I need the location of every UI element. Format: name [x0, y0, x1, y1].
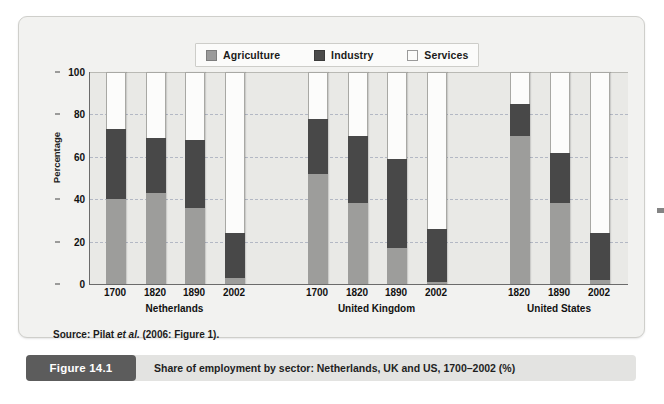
segment-agriculture	[550, 203, 570, 284]
segment-agriculture	[106, 199, 126, 284]
x-tick-label-1820-1: 1820	[135, 287, 175, 298]
segment-services	[550, 72, 570, 153]
segment-services	[427, 72, 447, 229]
y-tick-mark-60	[55, 156, 60, 157]
segment-services	[185, 72, 205, 140]
segment-industry	[225, 233, 245, 278]
segment-industry	[590, 233, 610, 280]
x-tick-label-2002-3: 2002	[214, 287, 254, 298]
y-tick-mark-0	[55, 284, 60, 285]
x-tick-label-1820-5: 1820	[337, 287, 377, 298]
source-suffix: (2006: Figure 1).	[140, 329, 219, 340]
segment-industry	[427, 229, 447, 282]
group-label-united-kingdom: United Kingdom	[307, 303, 447, 314]
segment-services	[348, 72, 368, 136]
segment-services	[590, 72, 610, 233]
segment-agriculture	[225, 278, 245, 284]
y-tick-label-60: 60	[59, 151, 85, 162]
segment-industry	[185, 140, 205, 208]
segment-services	[510, 72, 530, 104]
x-tick-label-2002-7: 2002	[416, 287, 456, 298]
bar-united-kingdom-1890	[387, 72, 407, 284]
y-tick-label-40: 40	[59, 194, 85, 205]
segment-agriculture	[590, 280, 610, 284]
x-axis-tick-labels: 1700182018902002170018201890200218201890…	[89, 287, 629, 303]
services-swatch-icon	[407, 50, 418, 61]
y-axis-ticks: 020406080100	[59, 72, 85, 284]
group-label-netherlands: Netherlands	[105, 303, 245, 314]
x-tick-label-1890-2: 1890	[174, 287, 214, 298]
x-tick-label-1890-9: 1890	[539, 287, 579, 298]
x-tick-label-1700-4: 1700	[297, 287, 337, 298]
agriculture-swatch-icon	[206, 50, 217, 61]
legend-item-services: Services	[407, 49, 468, 61]
bar-united-kingdom-2002	[427, 72, 447, 284]
y-tick-mark-20	[55, 241, 60, 242]
x-tick-label-1820-8: 1820	[499, 287, 539, 298]
industry-swatch-icon	[314, 50, 325, 61]
x-tick-label-1700-0: 1700	[95, 287, 135, 298]
legend-label-industry: Industry	[331, 49, 373, 61]
segment-services	[225, 72, 245, 233]
segment-industry	[510, 104, 530, 136]
plot-area-wrapper: 020406080100	[89, 72, 629, 300]
x-tick-label-1890-6: 1890	[376, 287, 416, 298]
bar-united-kingdom-1700	[308, 72, 328, 284]
group-label-united-states: United States	[489, 303, 629, 314]
bar-united-states-1820	[510, 72, 530, 284]
plot-area	[89, 72, 628, 285]
bar-netherlands-1820	[146, 72, 166, 284]
segment-services	[387, 72, 407, 159]
bar-netherlands-1700	[106, 72, 126, 284]
legend-item-industry: Industry	[314, 49, 373, 61]
segment-agriculture	[510, 136, 530, 284]
y-tick-label-20: 20	[59, 236, 85, 247]
segment-agriculture	[387, 248, 407, 284]
x-axis-group-labels: NetherlandsUnited KingdomUnited States	[89, 303, 629, 319]
segment-agriculture	[427, 282, 447, 284]
segment-services	[106, 72, 126, 129]
segment-industry	[308, 119, 328, 174]
y-tick-mark-40	[55, 199, 60, 200]
figure-caption-bar: Figure 14.1 Share of employment by secto…	[26, 355, 636, 381]
segment-industry	[387, 159, 407, 248]
segment-agriculture	[308, 174, 328, 284]
legend-item-agriculture: Agriculture	[206, 49, 280, 61]
print-artifact-mark	[657, 208, 664, 213]
segment-industry	[146, 138, 166, 193]
legend-label-services: Services	[424, 49, 468, 61]
source-prefix: Source: Pilat	[53, 329, 117, 340]
y-tick-label-100: 100	[59, 67, 85, 78]
segment-industry	[106, 129, 126, 199]
chart-legend: Agriculture Industry Services	[195, 43, 479, 67]
y-tick-label-0: 0	[59, 279, 85, 290]
segment-services	[308, 72, 328, 119]
segment-agriculture	[146, 193, 166, 284]
figure-caption-text: Share of employment by sector: Netherlan…	[136, 355, 636, 381]
chart-card: Agriculture Industry Services Percentage…	[18, 16, 645, 338]
bar-united-states-1890	[550, 72, 570, 284]
legend-label-agriculture: Agriculture	[223, 49, 280, 61]
bar-united-kingdom-1820	[348, 72, 368, 284]
bar-netherlands-2002	[225, 72, 245, 284]
segment-services	[146, 72, 166, 138]
source-etal: et al.	[117, 329, 140, 340]
bar-united-states-2002	[590, 72, 610, 284]
segment-industry	[550, 153, 570, 204]
source-note: Source: Pilat et al. (2006: Figure 1).	[53, 329, 219, 340]
bar-netherlands-1890	[185, 72, 205, 284]
segment-industry	[348, 136, 368, 204]
y-tick-mark-100	[55, 72, 60, 73]
segment-agriculture	[185, 208, 205, 284]
figure-number-badge: Figure 14.1	[26, 355, 136, 381]
x-tick-label-2002-10: 2002	[579, 287, 619, 298]
segment-agriculture	[348, 203, 368, 284]
y-tick-mark-80	[55, 114, 60, 115]
y-tick-label-80: 80	[59, 109, 85, 120]
